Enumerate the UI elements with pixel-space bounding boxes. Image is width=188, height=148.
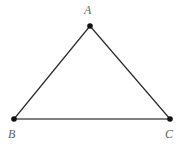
edge-ac — [90, 26, 170, 119]
vertex-dot-c — [167, 116, 173, 122]
triangle-diagram: A B C — [0, 0, 188, 148]
triangle-canvas — [0, 0, 188, 148]
vertex-label-b: B — [8, 128, 15, 140]
vertex-dot-a — [87, 23, 93, 29]
edge-ab — [14, 26, 90, 119]
vertex-label-c: C — [165, 128, 173, 140]
vertex-label-a: A — [84, 4, 91, 16]
vertex-dot-b — [11, 116, 17, 122]
